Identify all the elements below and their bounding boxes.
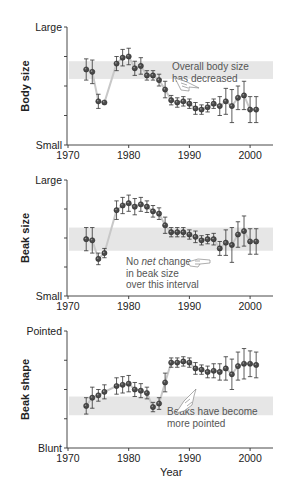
data-point (163, 87, 168, 92)
data-point (96, 256, 101, 261)
data-point (156, 211, 161, 216)
y-axis-label: Beak shape (19, 359, 31, 420)
data-point (205, 105, 210, 110)
data-point (205, 237, 210, 242)
data-point (205, 369, 210, 374)
data-point (181, 359, 186, 364)
data-point (132, 387, 137, 392)
y-top-label: Large (35, 21, 62, 33)
annotation-text: over this interval (126, 279, 199, 290)
data-point (235, 364, 240, 369)
data-point (90, 69, 95, 74)
data-point (223, 240, 228, 245)
data-point (193, 366, 198, 371)
data-point (150, 404, 155, 409)
y-axis-label: Body size (19, 60, 31, 111)
data-point (217, 103, 222, 108)
data-point (241, 228, 246, 233)
data-point (138, 63, 143, 68)
data-point (102, 100, 107, 105)
y-bottom-label: Small (36, 139, 62, 151)
data-point (181, 230, 186, 235)
data-point (102, 389, 107, 394)
x-tick-label: 2000 (238, 149, 262, 161)
data-point (84, 237, 89, 242)
data-point (193, 234, 198, 239)
data-point (193, 106, 198, 111)
data-point (187, 232, 192, 237)
data-point (90, 238, 95, 243)
data-point (229, 372, 234, 377)
data-point (199, 367, 204, 372)
y-bottom-label: Small (36, 290, 62, 302)
x-tick-label: 1980 (117, 300, 141, 312)
data-point (241, 93, 246, 98)
data-point (126, 381, 131, 386)
data-point (90, 395, 95, 400)
data-point (199, 107, 204, 112)
x-tick-label: 2000 (238, 452, 262, 464)
data-point (169, 230, 174, 235)
data-point (126, 201, 131, 206)
x-tick-label: 1990 (178, 300, 202, 312)
data-point (175, 360, 180, 365)
data-point (248, 239, 253, 244)
data-point (138, 202, 143, 207)
data-point (187, 101, 192, 106)
data-point (181, 99, 186, 104)
data-point (156, 78, 161, 83)
data-point (120, 382, 125, 387)
data-point (144, 390, 149, 395)
annotation-text: No net change (126, 256, 191, 267)
annotation-text: more pointed (167, 418, 225, 429)
x-tick-label: 1990 (178, 452, 202, 464)
chart-svg: 1970198019902000LargeSmallBody sizeOvera… (0, 0, 291, 489)
data-point (241, 361, 246, 366)
data-point (120, 203, 125, 208)
annotation-text: Overall body size (172, 61, 249, 72)
panel-body-size: 1970198019902000LargeSmallBody sizeOvera… (19, 21, 273, 161)
data-point (169, 360, 174, 365)
data-point (229, 242, 234, 247)
data-point (150, 209, 155, 214)
data-point (235, 232, 240, 237)
panel-beak-size: 1970198019902000LargeSmallBeak sizeNo ne… (19, 174, 273, 312)
data-point (84, 67, 89, 72)
pointing-hand-icon (188, 259, 210, 267)
data-point (150, 73, 155, 78)
data-point (84, 403, 89, 408)
data-point (114, 208, 119, 213)
data-point (126, 54, 131, 59)
data-point (223, 99, 228, 104)
data-point (217, 246, 222, 251)
data-point (96, 99, 101, 104)
data-point (223, 366, 228, 371)
data-point (235, 95, 240, 100)
x-tick-label: 1980 (117, 452, 141, 464)
data-point (254, 107, 259, 112)
data-point (211, 101, 216, 106)
data-point (211, 237, 216, 242)
y-top-label: Large (35, 174, 62, 186)
data-point (248, 107, 253, 112)
data-point (96, 393, 101, 398)
y-bottom-label: Blunt (38, 442, 62, 454)
x-tick-label: 1990 (178, 149, 202, 161)
data-point (102, 250, 107, 255)
data-point (175, 100, 180, 105)
data-point (254, 239, 259, 244)
data-point (156, 401, 161, 406)
data-point (248, 361, 253, 366)
data-point (175, 230, 180, 235)
data-point (199, 238, 204, 243)
data-point (132, 204, 137, 209)
y-top-label: Pointed (26, 325, 62, 337)
data-point (187, 360, 192, 365)
panel-beak-shape: 1970198019902000PointedBluntBeak shapeBe… (19, 325, 273, 478)
data-point (114, 61, 119, 66)
data-point (254, 362, 259, 367)
y-axis-label: Beak size (19, 213, 31, 263)
x-axis-label: Year (160, 466, 183, 478)
data-point (120, 55, 125, 60)
data-point (144, 204, 149, 209)
